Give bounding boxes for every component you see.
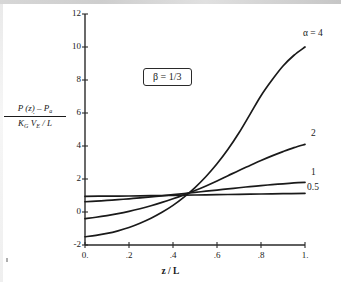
curve-0.5 — [85, 193, 305, 196]
x-tick-label: .2 — [116, 250, 142, 260]
x-tick-label: .6 — [204, 250, 230, 260]
y-tick-label: 8 — [55, 74, 81, 84]
y-tick-label: 0 — [55, 206, 81, 216]
y-tick-label: 12 — [55, 8, 81, 18]
axes — [85, 14, 305, 245]
x-tick-label: .4 — [160, 250, 186, 260]
curve-label-1: 1 — [311, 167, 316, 177]
y-tick-label: -2 — [55, 239, 81, 249]
x-axis-label: z / L — [0, 266, 341, 276]
curve-label-2: 2 — [311, 128, 316, 138]
plot-area — [0, 0, 341, 282]
y-tick-label: 4 — [55, 140, 81, 150]
curve--4 — [85, 47, 305, 237]
x-tick-label: 0. — [72, 250, 98, 260]
curve-1 — [85, 182, 305, 201]
y-tick-label: 6 — [55, 107, 81, 117]
y-tick-label: 2 — [55, 173, 81, 183]
curve-label-05: 0.5 — [307, 182, 319, 192]
x-tick-label: .8 — [248, 250, 274, 260]
beta-annotation-box: β = 1/3 — [143, 68, 192, 86]
curve-label-alpha-4: α = 4 — [303, 28, 323, 38]
figure-chart: P (z) – Pa KG VE / L -2024681012 0..2.4.… — [0, 0, 341, 282]
data-curves — [85, 47, 305, 237]
x-tick-label: 1. — [292, 250, 318, 260]
curve-2 — [85, 144, 305, 218]
y-tick-label: 10 — [55, 41, 81, 51]
y-tick-label-group: -2024681012 — [55, 0, 81, 282]
